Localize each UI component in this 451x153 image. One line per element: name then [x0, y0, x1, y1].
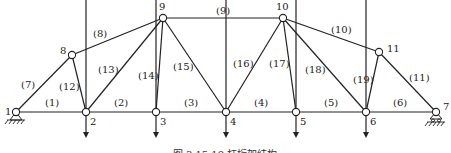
member-label: (10) [331, 24, 352, 35]
member-label: (9) [216, 5, 230, 16]
member-label: (11) [409, 72, 430, 83]
arrow-down-icon [293, 132, 299, 138]
node-label: 10 [276, 1, 289, 12]
member-label: (4) [254, 97, 268, 108]
member-label: (12) [59, 81, 80, 92]
node-joint [375, 48, 382, 55]
truss-diagram: (1)(2)(3)(4)(5)(6)(7)(8)(9)(10)(11)(12)(… [0, 0, 451, 153]
member-label: (1) [45, 97, 59, 108]
arrow-down-icon [153, 132, 159, 138]
node-label: 4 [230, 116, 236, 127]
truss-member [156, 18, 163, 112]
member-label: (13) [98, 64, 119, 75]
node-label: 6 [370, 116, 376, 127]
node-label: 7 [443, 101, 449, 112]
arrow-down-icon [83, 132, 89, 138]
node-joint [152, 108, 159, 115]
node-label: 9 [159, 1, 165, 12]
member-label: (6) [393, 97, 407, 108]
member-label: (3) [184, 97, 198, 108]
member-label: (14) [138, 70, 159, 81]
node-label: 11 [387, 43, 400, 54]
member-label: (5) [324, 97, 338, 108]
member-label: (15) [173, 61, 194, 72]
node-joint [362, 108, 369, 115]
load-arrows [83, 0, 369, 138]
node-label: 8 [60, 45, 66, 56]
node-joint [68, 51, 75, 58]
figure-caption: 图 3.15 19 杆桁架结构 [173, 148, 278, 153]
node-joint [159, 14, 166, 21]
node-joint [292, 108, 299, 115]
node-label: 5 [300, 116, 306, 127]
member-label: (7) [21, 79, 35, 90]
node-joint [82, 108, 89, 115]
member-label: (16) [233, 58, 254, 69]
node-joint [279, 14, 286, 21]
member-label: (8) [93, 28, 107, 39]
member-label: (17) [269, 58, 290, 69]
member-labels: (1)(2)(3)(4)(5)(6)(7)(8)(9)(10)(11)(12)(… [21, 5, 430, 108]
node-joint [432, 108, 439, 115]
member-label: (18) [305, 64, 326, 75]
node-label: 3 [160, 116, 166, 127]
node-label: 2 [90, 116, 96, 127]
node-joint [222, 108, 229, 115]
arrow-down-icon [223, 132, 229, 138]
member-label: (2) [114, 97, 128, 108]
arrow-down-icon [363, 132, 369, 138]
node-label: 1 [5, 106, 11, 117]
member-label: (19) [353, 74, 374, 85]
node-joint [12, 108, 19, 115]
